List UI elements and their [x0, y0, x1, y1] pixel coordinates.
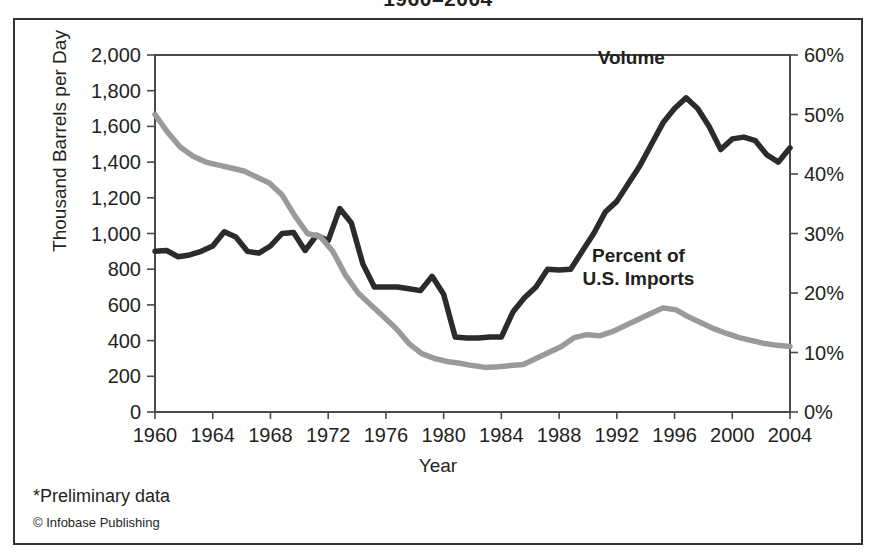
copyright-credit: © Infobase Publishing: [33, 515, 160, 530]
x-axis-title: Year: [0, 455, 876, 477]
y-axis-left-title: Thousand Barrels per Day: [49, 21, 71, 261]
chart-title: 1960–2004: [0, 0, 876, 10]
chart-figure: 1960–2004 Thousand Barrels per Day Year …: [0, 0, 876, 558]
preliminary-note: *Preliminary data: [33, 486, 170, 507]
